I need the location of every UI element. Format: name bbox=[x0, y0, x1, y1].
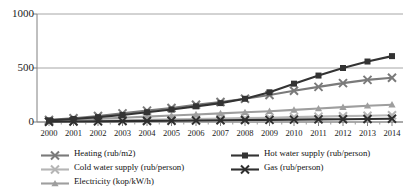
legend-swatch-icon bbox=[40, 164, 70, 175]
legend-swatch-icon bbox=[230, 164, 260, 175]
x-axis-tick-label: 2009 bbox=[257, 128, 283, 138]
data-point-marker bbox=[144, 109, 150, 115]
chart-legend: Heating (rub/m2)Cold water supply (rub/p… bbox=[40, 146, 412, 190]
x-axis-tick-label: 2012 bbox=[330, 128, 356, 138]
data-point-marker bbox=[340, 65, 346, 71]
legend-item-label: Gas (rub/person) bbox=[264, 162, 323, 172]
data-point-marker bbox=[389, 53, 395, 59]
data-point-marker bbox=[242, 96, 248, 102]
x-axis-tick-label: 2014 bbox=[379, 128, 405, 138]
data-point-marker bbox=[242, 153, 248, 159]
x-axis-tick-label: 2011 bbox=[306, 128, 332, 138]
y-axis-tick-label: 500 bbox=[0, 61, 34, 73]
x-axis-tick-label: 2004 bbox=[134, 128, 160, 138]
x-axis-tick-label: 2008 bbox=[232, 128, 258, 138]
legend-item[interactable]: Gas (rub/person) bbox=[230, 160, 370, 173]
data-point-marker bbox=[218, 100, 224, 106]
x-axis-tick-label: 2007 bbox=[208, 128, 234, 138]
data-point-marker bbox=[71, 116, 77, 122]
data-point-marker bbox=[267, 89, 273, 95]
data-point-marker bbox=[291, 81, 297, 87]
legend-marker-icon bbox=[230, 147, 260, 158]
legend-marker-icon bbox=[40, 175, 70, 186]
legend-item[interactable]: Heating (rub/m2) bbox=[40, 146, 184, 159]
data-point-marker bbox=[365, 59, 371, 65]
data-point-marker bbox=[95, 114, 101, 120]
legend-column-right: Hot water supply (rub/person)Gas (rub/pe… bbox=[230, 146, 370, 174]
legend-item-label: Electricity (kop/kW/h) bbox=[74, 176, 154, 186]
data-point-marker bbox=[120, 112, 126, 118]
legend-marker-icon bbox=[40, 147, 70, 158]
legend-item-label: Heating (rub/m2) bbox=[74, 148, 135, 158]
x-axis-tick-label: 2003 bbox=[110, 128, 136, 138]
data-point-marker bbox=[169, 107, 175, 113]
data-point-marker bbox=[193, 103, 199, 109]
y-axis-tick-label: 0 bbox=[0, 115, 34, 127]
x-axis-tick-label: 2001 bbox=[61, 128, 87, 138]
legend-swatch-icon bbox=[230, 150, 260, 161]
y-axis-tick-label: 1000 bbox=[0, 7, 34, 19]
legend-column-left: Heating (rub/m2)Cold water supply (rub/p… bbox=[40, 146, 184, 188]
legend-item[interactable]: Electricity (kop/kW/h) bbox=[40, 174, 184, 187]
legend-item[interactable]: Cold water supply (rub/person) bbox=[40, 160, 184, 173]
x-axis-tick-label: 2000 bbox=[36, 128, 62, 138]
legend-item-label: Cold water supply (rub/person) bbox=[74, 162, 184, 172]
x-axis-tick-label: 2005 bbox=[159, 128, 185, 138]
legend-swatch-icon bbox=[40, 178, 70, 189]
x-axis-tick-label: 2002 bbox=[85, 128, 111, 138]
legend-item-label: Hot water supply (rub/person) bbox=[264, 148, 370, 158]
line-chart: 10005000 2000200120022003200420052006200… bbox=[0, 0, 415, 194]
legend-swatch-icon bbox=[40, 150, 70, 161]
x-axis-tick-label: 2013 bbox=[355, 128, 381, 138]
x-axis-tick-label: 2010 bbox=[281, 128, 307, 138]
data-point-marker bbox=[46, 117, 52, 123]
x-axis-tick-label: 2006 bbox=[183, 128, 209, 138]
data-point-marker bbox=[316, 73, 322, 79]
legend-item[interactable]: Hot water supply (rub/person) bbox=[230, 146, 370, 159]
legend-marker-icon bbox=[230, 161, 260, 172]
legend-marker-icon bbox=[40, 161, 70, 172]
